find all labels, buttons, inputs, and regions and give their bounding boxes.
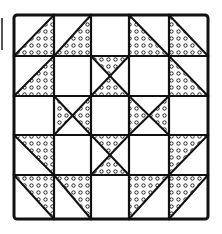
dotted-triangle [91, 56, 129, 76]
dotted-triangles [14, 15, 208, 219]
dotted-triangle [149, 96, 169, 135]
dotted-triangle [91, 135, 129, 155]
dotted-triangle [129, 96, 149, 135]
dotted-triangle [91, 155, 129, 175]
dotted-triangle [73, 96, 92, 135]
dotted-triangle [91, 76, 129, 96]
quilt-block-diagram [0, 0, 222, 234]
dotted-triangle [54, 96, 73, 135]
